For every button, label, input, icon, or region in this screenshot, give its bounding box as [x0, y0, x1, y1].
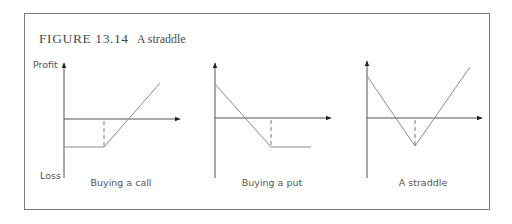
panel-label-put: Buying a put	[242, 177, 303, 188]
payoff-line-call	[64, 83, 160, 147]
payoff-diagrams	[0, 0, 512, 224]
panel-label-call: Buying a call	[90, 177, 151, 188]
payoff-line-straddle	[367, 67, 470, 146]
panel-label-straddle: A straddle	[399, 177, 447, 188]
payoff-line-put	[215, 84, 311, 147]
